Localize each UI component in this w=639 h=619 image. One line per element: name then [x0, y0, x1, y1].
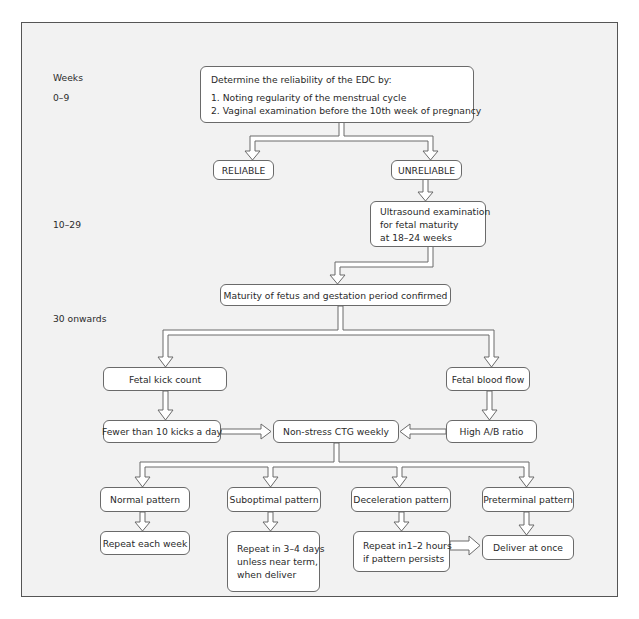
- maturity-confirmed-box: Maturity of fetus and gestation period c…: [220, 284, 451, 306]
- fetal-kick-count-box: Fetal kick count: [103, 367, 227, 391]
- ultrasound-line-1: Ultrasound examination: [380, 205, 490, 218]
- weeks-header-label: Weeks: [53, 72, 83, 83]
- unreliable-box: UNRELIABLE: [391, 160, 462, 180]
- edc-heading: Determine the reliability of the EDC by:: [211, 73, 392, 86]
- suboptimal-pattern-box: Suboptimal pattern: [227, 487, 321, 512]
- repeat-days-line-2: unless near term,: [237, 555, 318, 568]
- repeat-each-week-box: Repeat each week: [100, 531, 190, 555]
- weeks-range-30-onwards-label: 30 onwards: [53, 313, 106, 324]
- high-ab-ratio-box: High A/B ratio: [446, 420, 537, 443]
- weeks-range-10-29-label: 10–29: [53, 219, 81, 230]
- fetal-blood-flow-box: Fetal blood flow: [446, 367, 530, 391]
- edc-item-1: 1. Noting regularity of the menstrual cy…: [211, 91, 406, 104]
- repeat-1-2-hours-box: Repeat in1–2 hours if pattern persists: [353, 531, 450, 572]
- repeat-days-line-3: when deliver: [237, 568, 296, 581]
- fewer-kicks-box: Fewer than 10 kicks a day: [103, 420, 221, 443]
- deceleration-pattern-box: Deceleration pattern: [351, 487, 451, 512]
- ultrasound-box: Ultrasound examination for fetal maturit…: [370, 201, 486, 247]
- normal-pattern-box: Normal pattern: [100, 487, 190, 512]
- ultrasound-line-3: at 18–24 weeks: [380, 231, 452, 244]
- deliver-at-once-box: Deliver at once: [482, 535, 574, 560]
- repeat-3-4-days-box: Repeat in 3–4 days unless near term, whe…: [227, 531, 320, 592]
- weeks-range-0-9-label: 0–9: [53, 92, 69, 103]
- ultrasound-line-2: for fetal maturity: [380, 218, 459, 231]
- edc-reliability-box: Determine the reliability of the EDC by:…: [200, 66, 474, 123]
- repeat-days-line-1: Repeat in 3–4 days: [237, 542, 324, 555]
- reliable-box: RELIABLE: [213, 160, 274, 180]
- edc-item-2: 2. Vaginal examination before the 10th w…: [211, 104, 481, 117]
- preterminal-pattern-box: Preterminal pattern: [482, 487, 574, 512]
- repeat-hours-line-1: Repeat in1–2 hours: [363, 539, 452, 552]
- repeat-hours-line-2: if pattern persists: [363, 552, 444, 565]
- ctg-weekly-box: Non-stress CTG weekly: [273, 420, 399, 443]
